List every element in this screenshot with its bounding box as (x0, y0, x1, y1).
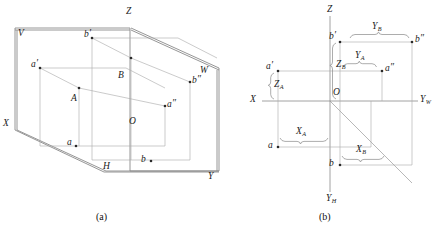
axis-label-x-b: X (250, 95, 256, 105)
dimension-label-z-a: ZA (274, 80, 283, 90)
origin-label-o-a: O (129, 117, 136, 127)
brace-y-a (343, 61, 377, 67)
plane-h-boundary (15, 130, 219, 172)
figure-root: .thin { fill:none; stroke:#9a9a9a; strok… (0, 0, 436, 233)
plane-label-h: H (103, 162, 110, 172)
origin-label-o-b: O (333, 88, 340, 98)
point-b-top-label-a: b (141, 155, 146, 165)
point-b-space-label-a: B (118, 71, 124, 81)
figure-artwork: .thin { fill:none; stroke:#9a9a9a; strok… (0, 0, 436, 233)
point-b-side-label-b: b″ (415, 34, 425, 45)
dot-b-top (339, 164, 342, 167)
dot-b-side (189, 81, 192, 84)
point-b-construction (92, 38, 217, 160)
plane-label-v: V (18, 29, 24, 39)
panel-b-artwork (262, 16, 418, 192)
point-b-front-label-b: b′ (329, 31, 337, 42)
point-b-front-label-a: b′ (84, 29, 92, 40)
dot-a-top (277, 146, 280, 149)
panel-b-a-box (371, 71, 382, 147)
axis-label-yw-b: YW (420, 95, 431, 105)
point-a-top-label-a: a (67, 138, 72, 148)
axis-label-y-a: Y (208, 172, 213, 182)
point-a-side-label-b: a″ (385, 63, 395, 74)
caption-panel-b: (b) (319, 211, 331, 222)
brace-x-b (342, 156, 384, 162)
dot-b-top (150, 160, 153, 163)
brace-y-b (350, 32, 409, 38)
point-a-space-label-a: A (71, 94, 77, 104)
caption-panel-a: (a) (96, 211, 107, 222)
dot-a-side (381, 70, 384, 73)
point-b-side-label-a: b″ (192, 75, 202, 86)
point-a-top-label-b: a (268, 141, 273, 151)
point-b-top-label-b: b (329, 159, 334, 169)
dimension-label-x-a: XA (296, 127, 306, 137)
dimension-label-y-a: YA (355, 51, 364, 61)
dot-a-front (277, 70, 280, 73)
dot-a-side (164, 105, 167, 108)
axis-label-z-b: Z (327, 5, 332, 15)
dimension-label-x-b: XB (356, 145, 366, 155)
axis-label-yh-b: YH (326, 194, 336, 204)
point-a-construction (40, 68, 165, 146)
dimension-label-z-b: ZB (336, 60, 345, 70)
panel-a-artwork (15, 28, 219, 172)
brace-x-a (280, 138, 328, 144)
axis-label-z-a: Z (126, 7, 131, 17)
dot-a-top (75, 145, 78, 148)
dot-b-front (339, 41, 342, 44)
point-a-front-label-b: a′ (266, 61, 274, 72)
dimension-label-y-b: YB (372, 22, 381, 32)
point-a-front-label-a: a′ (31, 59, 39, 70)
point-a-side-label-a: a″ (167, 99, 177, 110)
dot-a-front (39, 67, 42, 70)
axis-label-x-a: X (3, 119, 9, 129)
dot-a-space (78, 87, 81, 90)
dot-b-side (411, 41, 414, 44)
dot-b-space (130, 57, 133, 60)
